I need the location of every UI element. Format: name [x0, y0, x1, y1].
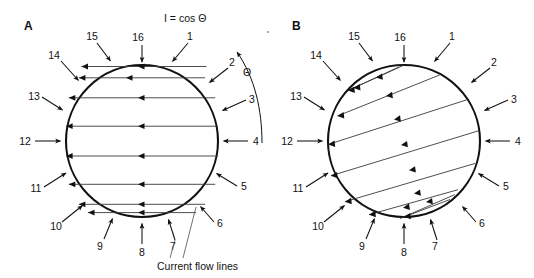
panel-a-electrode-6: 6 [217, 217, 223, 229]
panel-a-electrode-12: 12 [19, 135, 31, 147]
panel-a-electrode-8: 8 [139, 246, 145, 258]
panel-b-electrode-8: 8 [401, 246, 407, 258]
current-flow-lines-caption: Current flow lines [157, 260, 238, 272]
panel-b-electrode-4: 4 [515, 135, 521, 147]
panel-a-electrode-15: 15 [86, 30, 98, 42]
panel-b-electrode-2: 2 [491, 56, 497, 68]
panel-a-electrode-2: 2 [229, 56, 235, 68]
panel-a-electrode-1: 1 [187, 30, 193, 42]
panel-b-electrode-10: 10 [312, 220, 324, 232]
panel-a-flow-lines [66, 67, 218, 213]
panel-a-electrode-9: 9 [97, 240, 103, 252]
panel-a-flow-arrowheads [66, 64, 144, 216]
panel-b-electrode-1: 1 [449, 30, 455, 42]
panel-b-electrode-16: 16 [394, 31, 406, 43]
panel-a: A I = cos Θ [19, 12, 269, 272]
figure-container: A I = cos Θ [0, 0, 534, 278]
panel-a-electrode-11: 11 [31, 182, 42, 194]
theta-label: Θ [243, 66, 251, 78]
panel-a-body-boundary [66, 65, 218, 217]
panel-b-electrode-3: 3 [511, 93, 517, 105]
panel-a-electrode-10: 10 [50, 220, 62, 232]
panel-a-letter: A [24, 19, 33, 33]
panel-b-electrode-12: 12 [281, 135, 293, 147]
panel-b: B [281, 19, 521, 258]
flow-line-2-12 [328, 100, 467, 145]
panel-b-body-boundary [328, 65, 480, 217]
panel-b-electrode-14: 14 [310, 49, 322, 61]
scan-artifact-speck [267, 31, 269, 33]
panel-a-electrode-16: 16 [132, 31, 144, 43]
panel-a-formula: I = cos Θ [164, 12, 206, 24]
panel-a-electrode-13: 13 [28, 90, 40, 102]
panel-a-electrode-4: 4 [253, 135, 259, 147]
panel-b-electrode-11: 11 [293, 182, 304, 194]
panel-b-electrode-9: 9 [359, 240, 365, 252]
panel-a-electrode-3: 3 [249, 93, 255, 105]
panel-b-electrode-5: 5 [503, 180, 509, 192]
figure-svg: A I = cos Θ [0, 0, 534, 278]
panel-a-electrode-5: 5 [241, 180, 247, 192]
flow-line-5-9 [369, 190, 458, 215]
panel-b-letter: B [292, 19, 301, 33]
panel-b-electrode-15: 15 [348, 30, 360, 42]
panel-b-electrode-7: 7 [432, 240, 438, 252]
panel-a-electrode-14: 14 [48, 49, 60, 61]
panel-b-electrode-6: 6 [479, 217, 485, 229]
panel-b-electrode-13: 13 [290, 90, 302, 102]
